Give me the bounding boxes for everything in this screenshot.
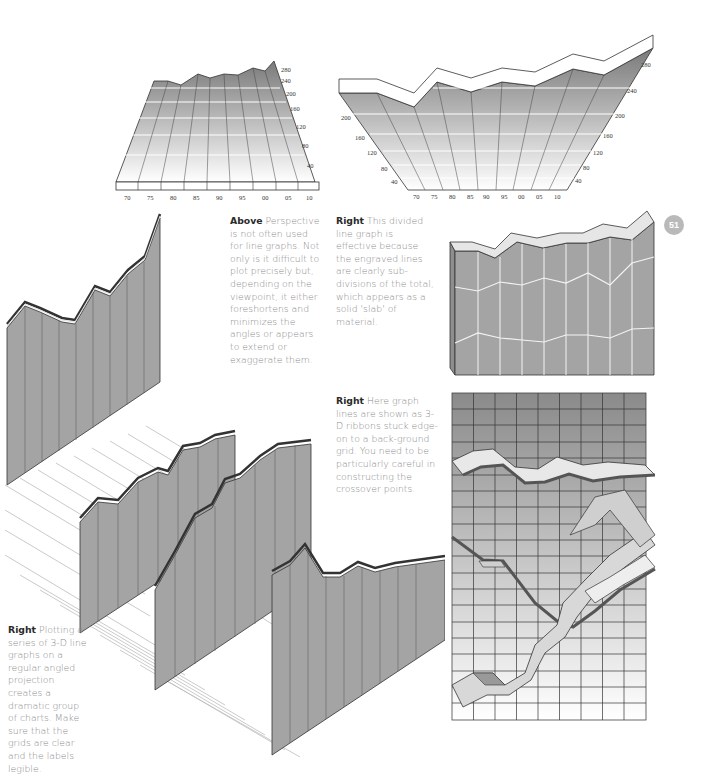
svg-text:40: 40 — [575, 177, 582, 184]
svg-text:200: 200 — [615, 112, 625, 119]
svg-text:70: 70 — [124, 194, 131, 201]
svg-text:90: 90 — [216, 194, 223, 201]
perspective-chart-receding: 707580859095000510 2802402001601208040 — [110, 55, 320, 205]
svg-text:90: 90 — [483, 193, 490, 200]
svg-text:240: 240 — [627, 87, 637, 94]
svg-text:200: 200 — [341, 114, 351, 121]
svg-text:120: 120 — [367, 149, 377, 156]
svg-text:160: 160 — [355, 134, 365, 141]
svg-text:160: 160 — [290, 105, 300, 112]
page-number-badge: 51 — [664, 215, 684, 235]
svg-text:70: 70 — [413, 193, 420, 200]
svg-text:10: 10 — [554, 193, 561, 200]
divided-slab-chart — [445, 205, 665, 385]
svg-text:95: 95 — [239, 194, 246, 201]
svg-text:80: 80 — [583, 164, 590, 171]
caption-lead: Right — [8, 624, 36, 635]
ribbon-grid-chart — [445, 385, 718, 740]
svg-text:95: 95 — [501, 193, 508, 200]
svg-text:40: 40 — [307, 162, 314, 169]
svg-text:00: 00 — [518, 193, 525, 200]
svg-text:160: 160 — [603, 132, 613, 139]
svg-text:80: 80 — [170, 194, 177, 201]
svg-text:120: 120 — [593, 149, 603, 156]
svg-text:75: 75 — [431, 193, 438, 200]
svg-text:280: 280 — [281, 66, 291, 73]
svg-text:200: 200 — [286, 90, 296, 97]
svg-text:85: 85 — [467, 193, 474, 200]
svg-text:280: 280 — [641, 61, 651, 68]
svg-text:00: 00 — [262, 194, 269, 201]
svg-text:80: 80 — [449, 193, 456, 200]
svg-text:40: 40 — [391, 178, 398, 185]
svg-text:75: 75 — [147, 194, 154, 201]
caption-series: Right Plotting a series of 3-D line grap… — [8, 624, 90, 775]
svg-text:05: 05 — [536, 193, 543, 200]
svg-text:80: 80 — [302, 142, 309, 149]
svg-text:120: 120 — [296, 123, 306, 130]
svg-text:10: 10 — [306, 194, 313, 201]
perspective-chart-slab: 707580859095000510 2001601208040 2802402… — [335, 30, 718, 200]
svg-text:05: 05 — [285, 194, 292, 201]
svg-text:80: 80 — [381, 165, 388, 172]
svg-text:240: 240 — [281, 77, 291, 84]
svg-text:85: 85 — [193, 194, 200, 201]
